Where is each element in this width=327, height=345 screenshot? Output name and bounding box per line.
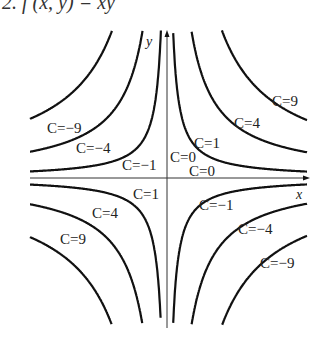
level-curve-c-9-left bbox=[30, 31, 112, 119]
label-q4-cneg1: C=−1 bbox=[199, 197, 233, 213]
label-c0-xaxis: C=0 bbox=[189, 163, 215, 179]
y-axis-label: y bbox=[144, 34, 153, 49]
level-curve-c4-left bbox=[30, 204, 142, 323]
y-axis-arrow-icon bbox=[165, 30, 170, 37]
label-q4-cneg4: C=−4 bbox=[238, 221, 273, 237]
label-q3-c9: C=9 bbox=[60, 231, 86, 247]
axes: y x bbox=[30, 30, 310, 328]
label-q3-c4: C=4 bbox=[92, 205, 118, 221]
level-curve-c9-left bbox=[30, 237, 112, 324]
label-q4-cneg9: C=−9 bbox=[260, 255, 294, 271]
x-axis-arrow-icon bbox=[303, 176, 310, 181]
level-curve-c-1-right bbox=[173, 184, 307, 323]
label-q2-cneg4: C=−4 bbox=[76, 140, 111, 156]
label-q1-c9: C=9 bbox=[272, 93, 298, 109]
level-curve-c-9-right bbox=[222, 236, 307, 325]
label-q1-c4: C=4 bbox=[234, 115, 260, 131]
label-q1-c1: C=1 bbox=[194, 135, 220, 151]
x-axis-label: x bbox=[295, 187, 303, 202]
label-q2-cneg1: C=−1 bbox=[122, 157, 156, 173]
contour-plot: y x C=9 C=4 C=1 C=0 C=0 C=−9 C=−4 C=−1 C… bbox=[0, 0, 327, 345]
label-q2-cneg9: C=−9 bbox=[47, 120, 81, 136]
label-q3-c1: C=1 bbox=[133, 186, 159, 202]
